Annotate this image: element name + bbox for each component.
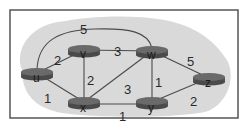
svg-text:x: x [80, 101, 86, 115]
edge-cost-y-z: 2 [190, 94, 197, 109]
edge-cost-x-w: 3 [124, 82, 131, 97]
edge-cost-u-x: 1 [44, 91, 51, 106]
edge-cost-u-w: 5 [80, 22, 87, 37]
edge-cost-v-w: 3 [114, 44, 121, 59]
svg-text:v: v [80, 47, 86, 61]
svg-text:u: u [33, 71, 40, 85]
svg-text:y: y [148, 101, 154, 115]
edge-cost-w-z: 5 [187, 54, 194, 69]
edge-cost-w-y: 1 [155, 75, 162, 90]
edge-cost-v-x: 2 [87, 73, 94, 88]
svg-text:z: z [205, 76, 211, 90]
edge-cost-u-v: 2 [54, 53, 61, 68]
network-graph-diagram: 2 5 1 3 2 3 1 1 5 2 u v w x y z [0, 0, 246, 128]
svg-text:w: w [146, 48, 156, 62]
edge-cost-x-y: 1 [119, 109, 126, 124]
